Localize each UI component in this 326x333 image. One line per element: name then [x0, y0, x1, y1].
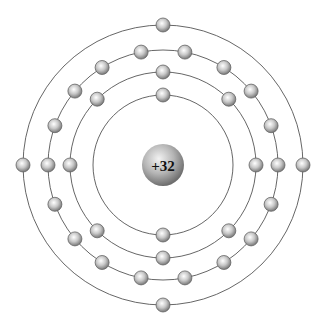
- electron-shell-3: [68, 84, 82, 98]
- electron-shell-3: [41, 158, 55, 172]
- electron-shell-3: [178, 271, 192, 285]
- electron-shell-2: [222, 224, 236, 238]
- electron-shell-4: [156, 18, 170, 32]
- electron-shell-2: [63, 158, 77, 172]
- electron-shell-3: [134, 45, 148, 59]
- electron-shell-4: [296, 158, 310, 172]
- electron-shell-3: [271, 158, 285, 172]
- electron-shell-3: [264, 197, 278, 211]
- electron-shell-3: [48, 197, 62, 211]
- electron-shell-3: [217, 61, 231, 75]
- electron-shell-3: [217, 256, 231, 270]
- electron-shell-4: [16, 158, 30, 172]
- atom-diagram: +32: [0, 0, 326, 333]
- electron-shell-3: [95, 256, 109, 270]
- electron-shell-3: [178, 45, 192, 59]
- electron-shell-3: [134, 271, 148, 285]
- electron-shell-3: [48, 119, 62, 133]
- electron-shell-2: [90, 92, 104, 106]
- electron-shell-1: [156, 88, 170, 102]
- electron-shell-3: [95, 61, 109, 75]
- electron-shell-3: [244, 84, 258, 98]
- electron-shell-3: [264, 119, 278, 133]
- electron-shell-4: [156, 298, 170, 312]
- electron-shell-2: [156, 251, 170, 265]
- electron-shell-2: [90, 224, 104, 238]
- electron-shell-2: [156, 65, 170, 79]
- electron-shell-2: [222, 92, 236, 106]
- nucleus: +32: [142, 144, 184, 186]
- nucleus-charge-label: +32: [151, 158, 175, 174]
- electron-shell-3: [244, 232, 258, 246]
- electron-shell-1: [156, 228, 170, 242]
- electron-shell-2: [249, 158, 263, 172]
- electron-shell-3: [68, 232, 82, 246]
